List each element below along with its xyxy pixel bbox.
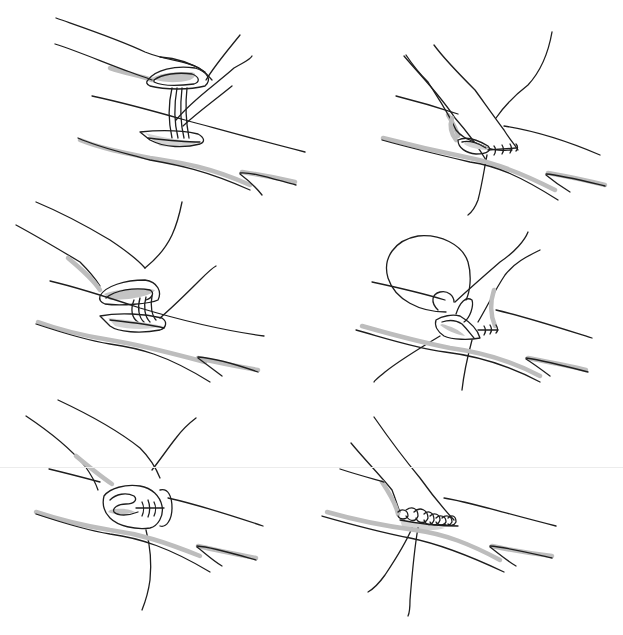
panel-1-needle-through-wound (55, 18, 305, 195)
panel-2-stitches-along-edge (382, 32, 605, 215)
panel-3-loops-through-everted-edge (16, 202, 264, 382)
scan-seam-line (0, 467, 623, 468)
panel-4-thread-loop-over-wound (356, 232, 592, 390)
suture-illustration (0, 0, 623, 635)
panel-6-completed-running-suture (322, 417, 556, 616)
panel-5-inverted-edge-cross-stitch (26, 400, 263, 610)
